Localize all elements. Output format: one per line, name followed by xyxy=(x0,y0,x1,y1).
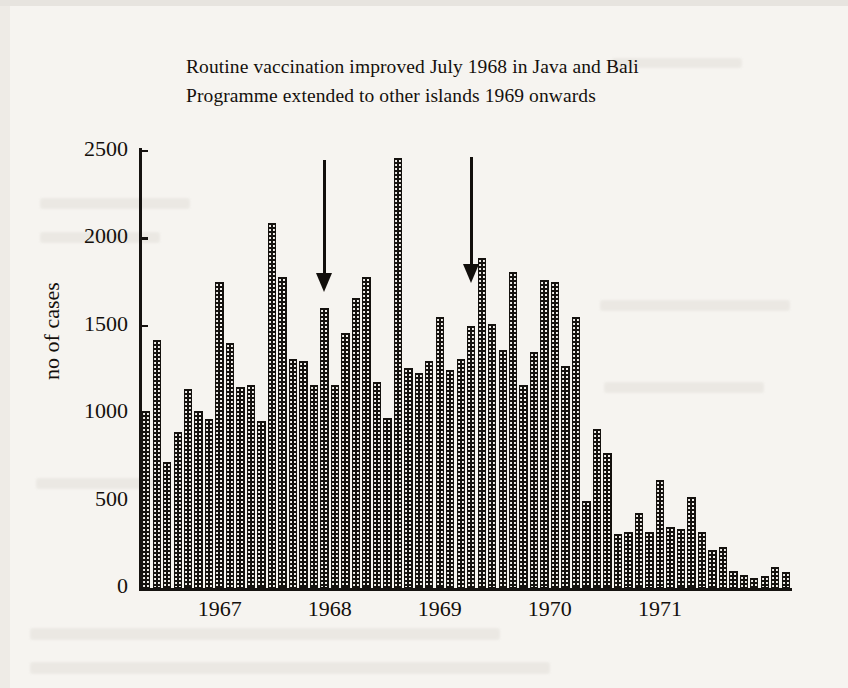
bar xyxy=(194,411,202,588)
bar xyxy=(404,368,412,588)
bar xyxy=(163,462,171,588)
bar xyxy=(142,411,150,588)
x-tick-label-1968: 1968 xyxy=(285,596,375,622)
bar xyxy=(205,419,213,588)
y-tick-label-0: 0 xyxy=(50,573,128,599)
y-tick-label-2000: 2000 xyxy=(50,223,128,249)
chart-caption-line-1: Routine vaccination improved July 1968 i… xyxy=(186,56,639,78)
bar xyxy=(761,576,769,588)
bar xyxy=(352,298,360,588)
bar xyxy=(320,308,328,588)
bar xyxy=(614,534,622,588)
bar xyxy=(467,326,475,588)
bar xyxy=(593,429,601,588)
bar xyxy=(519,385,527,588)
bar xyxy=(635,513,643,588)
x-tick-label-1970: 1970 xyxy=(505,596,595,622)
bar xyxy=(698,532,706,588)
bar xyxy=(299,361,307,588)
y-tick-label-1500: 1500 xyxy=(50,311,128,337)
bar xyxy=(561,366,569,588)
bar xyxy=(666,527,674,588)
bar xyxy=(174,432,182,588)
bar xyxy=(268,223,276,588)
x-axis-line xyxy=(139,588,792,591)
bar xyxy=(394,158,402,588)
x-tick-label-1971: 1971 xyxy=(615,596,705,622)
bar xyxy=(582,501,590,588)
annotation-arrow-down-icon xyxy=(312,160,336,292)
bar xyxy=(645,532,653,588)
bar xyxy=(750,578,758,588)
arrow-head xyxy=(316,273,332,292)
bar xyxy=(740,575,748,588)
x-tick-label-1967: 1967 xyxy=(175,596,265,622)
bar xyxy=(677,529,685,588)
bar xyxy=(153,340,161,588)
bar xyxy=(530,352,538,588)
bar-chart-figure: Routine vaccination improved July 1968 i… xyxy=(0,0,848,688)
bar xyxy=(383,418,391,588)
bar xyxy=(257,421,265,588)
bar xyxy=(446,370,454,589)
bar xyxy=(656,480,664,588)
y-tick-label-2500: 2500 xyxy=(50,136,128,162)
bar xyxy=(184,389,192,588)
bar xyxy=(341,333,349,588)
y-tick-label-1000: 1000 xyxy=(50,398,128,424)
bar xyxy=(478,258,486,588)
bar xyxy=(236,387,244,588)
bar xyxy=(603,453,611,588)
bar xyxy=(572,317,580,588)
x-tick-label-1969: 1969 xyxy=(395,596,485,622)
bar xyxy=(719,547,727,588)
bar xyxy=(331,385,339,588)
bar xyxy=(499,350,507,588)
bar xyxy=(436,317,444,588)
chart-caption-line-2: Programme extended to other islands 1969… xyxy=(186,85,596,107)
arrow-head xyxy=(463,264,479,283)
bar xyxy=(771,567,779,588)
bar xyxy=(215,282,223,588)
bar xyxy=(782,572,790,588)
bar xyxy=(687,497,695,588)
bar xyxy=(708,550,716,588)
annotation-arrow-down-icon xyxy=(459,157,483,283)
bar xyxy=(624,532,632,588)
bar xyxy=(729,571,737,588)
y-tick-label-500: 500 xyxy=(50,486,128,512)
bar xyxy=(488,324,496,588)
bar xyxy=(551,282,559,588)
arrow-shaft xyxy=(323,160,326,274)
bar xyxy=(415,373,423,588)
bar xyxy=(509,272,517,588)
bar xyxy=(226,343,234,588)
bar xyxy=(310,385,318,588)
bar xyxy=(289,359,297,588)
bar xyxy=(457,359,465,588)
bar xyxy=(247,385,255,588)
bar xyxy=(278,277,286,588)
bar xyxy=(362,277,370,588)
bar xyxy=(425,361,433,588)
bar xyxy=(540,280,548,588)
arrow-shaft xyxy=(470,157,473,265)
bar xyxy=(373,382,381,588)
